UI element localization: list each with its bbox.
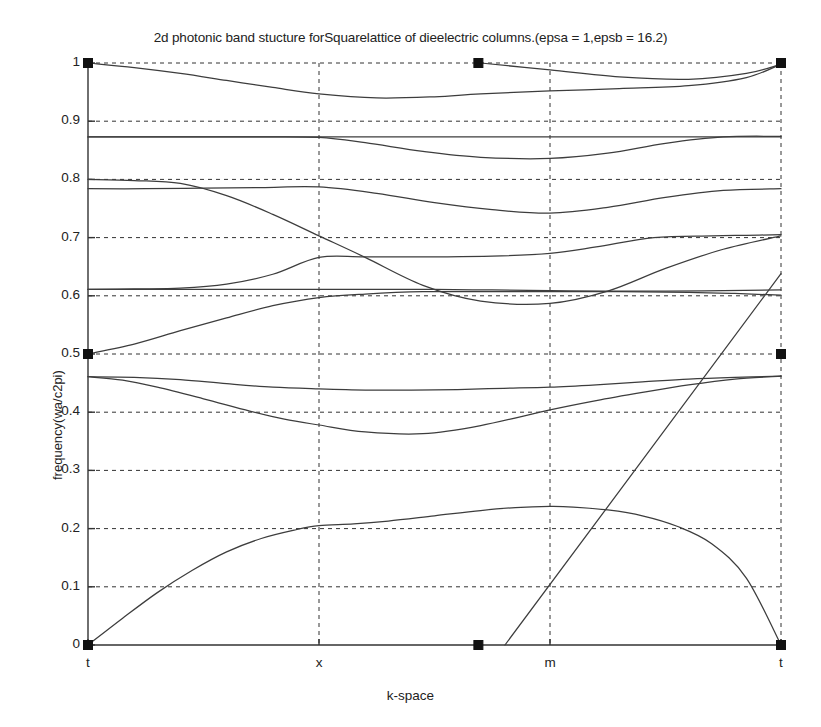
y-tick-label: 0.1 (34, 578, 80, 593)
data-marker (777, 350, 786, 359)
figure-canvas: 2d photonic band stucture forSquarelatti… (0, 0, 821, 727)
y-tick-label: 0.2 (34, 520, 80, 535)
data-marker (474, 641, 483, 650)
y-tick-label: 0.3 (34, 461, 80, 476)
band-curve-band-2 (88, 376, 781, 390)
band-curve-band-4 (88, 292, 781, 354)
x-tick-label: t (73, 655, 103, 670)
y-tick-label: 0.5 (34, 345, 80, 360)
data-marker (84, 350, 93, 359)
data-marker (474, 59, 483, 68)
band-curve-band-7 (88, 179, 781, 304)
y-tick-label: 0.9 (34, 112, 80, 127)
x-tick-label: t (766, 655, 796, 670)
band-curve-band-8 (88, 187, 781, 214)
y-tick-label: 1 (34, 54, 80, 69)
y-tick-label: 0.7 (34, 229, 80, 244)
data-marker (84, 641, 93, 650)
y-tick-label: 0.8 (34, 170, 80, 185)
band-curve-band-12 (481, 63, 781, 79)
y-tick-label: 0.4 (34, 403, 80, 418)
band-curve-band-1 (88, 506, 781, 645)
x-tick-label: x (304, 655, 334, 670)
y-tick-label: 0 (34, 636, 80, 651)
band-curve-stray-line (505, 274, 781, 645)
y-tick-label: 0.6 (34, 287, 80, 302)
x-tick-label: m (535, 655, 565, 670)
data-marker (84, 59, 93, 68)
band-curve-band-10 (88, 136, 781, 158)
plot-area (0, 0, 821, 727)
data-marker (777, 641, 786, 650)
band-curve-band-5 (88, 235, 781, 290)
data-marker (777, 59, 786, 68)
band-curve-band-11 (88, 63, 781, 98)
band-curve-band-3 (88, 376, 781, 434)
